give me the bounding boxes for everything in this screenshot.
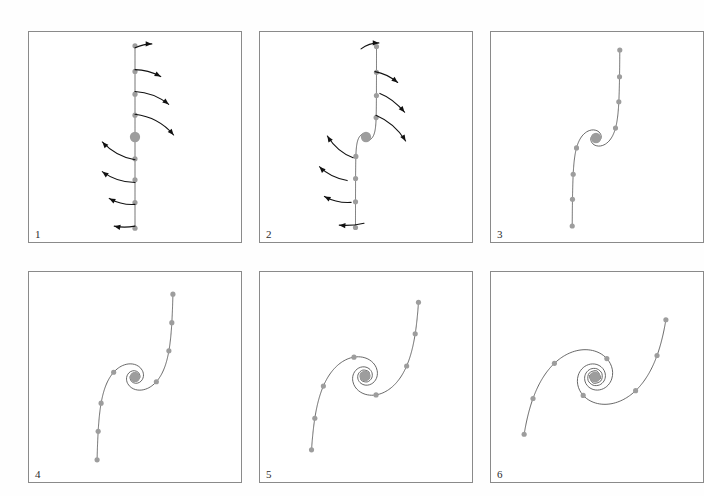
tracer-dot [99, 401, 104, 406]
panel-6-drawing [491, 272, 703, 482]
velocity-arrow-head [162, 98, 168, 104]
tracer-dot [404, 363, 409, 368]
velocity-arrow-head [146, 41, 152, 46]
panel-label: 6 [497, 469, 503, 480]
tracer-dot [570, 223, 575, 228]
panel-2-drawing [260, 32, 472, 242]
tracer-dot [581, 393, 586, 398]
tracer-dot [132, 156, 137, 161]
tracer-dot [132, 92, 137, 97]
tracer-dot [309, 447, 314, 452]
tracer-dot [373, 392, 378, 397]
tracer-dot [616, 99, 621, 104]
tracer-dot [353, 176, 358, 181]
tracer-dot [170, 292, 175, 297]
tracer-dot [570, 197, 575, 202]
panel-5: 5 [259, 271, 473, 483]
center-dot [590, 372, 601, 383]
center-dot [130, 372, 140, 382]
tracer-dot [166, 348, 171, 353]
tracer-dot [571, 172, 576, 177]
velocity-arrow-head [391, 77, 397, 83]
panel-3-drawing [491, 32, 703, 242]
center-dot [591, 133, 601, 143]
center-dot [360, 371, 371, 382]
velocity-arrow-head [400, 134, 405, 141]
tracer-dot [617, 74, 622, 79]
tracer-dot [633, 388, 638, 393]
velocity-arrow-head [114, 225, 121, 230]
panel-label: 1 [35, 229, 41, 240]
tracer-dot [353, 154, 358, 159]
tracer-dot [613, 125, 618, 130]
tracer-dot [604, 356, 609, 361]
tracer-dot [154, 379, 159, 384]
tracer-dot [132, 177, 137, 182]
panel-5-drawing [260, 272, 472, 482]
panel-label: 4 [35, 469, 41, 480]
tracer-dot [413, 331, 418, 336]
velocity-arrow-head [327, 136, 332, 143]
tracer-dot [111, 370, 116, 375]
velocity-arrow-head [102, 172, 108, 178]
tracer-dot [617, 47, 622, 52]
panel-2: 2 [259, 31, 473, 243]
tracer-dot [663, 317, 668, 322]
figure-canvas: 123456 [0, 0, 704, 496]
panel-label: 5 [266, 469, 272, 480]
panel-3: 3 [490, 31, 704, 243]
tracer-dot [374, 44, 379, 49]
tracer-dot [416, 300, 421, 305]
tracer-dot [351, 355, 356, 360]
panel-1: 1 [28, 31, 242, 243]
tracer-dot [654, 353, 659, 358]
tracer-dot [552, 361, 557, 366]
tracer-dot [522, 432, 527, 437]
panel-1-drawing [29, 32, 241, 242]
panel-4-drawing [29, 272, 241, 482]
velocity-arrow-head [319, 167, 325, 173]
tracer-dot [96, 429, 101, 434]
tracer-dot [353, 225, 358, 230]
tracer-dot [169, 320, 174, 325]
panel-6: 6 [490, 271, 704, 483]
tracer-dot [132, 113, 137, 118]
tracer-dot [353, 199, 358, 204]
tracer-dot [95, 457, 100, 462]
tracer-dot [530, 396, 535, 401]
panel-label: 3 [497, 229, 503, 240]
center-dot [130, 132, 140, 142]
panel-4: 4 [28, 271, 242, 483]
panel-label: 2 [266, 229, 272, 240]
tracer-dot [312, 416, 317, 421]
tracer-dot [374, 93, 379, 98]
center-dot [361, 132, 371, 142]
tracer-dot [321, 383, 326, 388]
tracer-dot [574, 145, 579, 150]
